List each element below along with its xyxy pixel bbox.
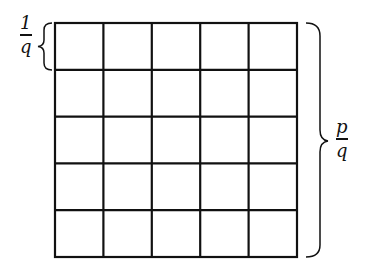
left-fraction-label: 1 q xyxy=(18,14,33,56)
left-numerator: 1 xyxy=(18,14,33,32)
right-fraction-label: p q xyxy=(334,118,350,160)
right-brace xyxy=(306,23,328,257)
right-denominator: q xyxy=(336,142,348,160)
right-numerator: p xyxy=(334,118,350,136)
grid-outline xyxy=(55,23,297,257)
left-brace xyxy=(38,23,52,70)
grid-diagram xyxy=(0,0,365,273)
left-denominator: q xyxy=(20,38,32,56)
